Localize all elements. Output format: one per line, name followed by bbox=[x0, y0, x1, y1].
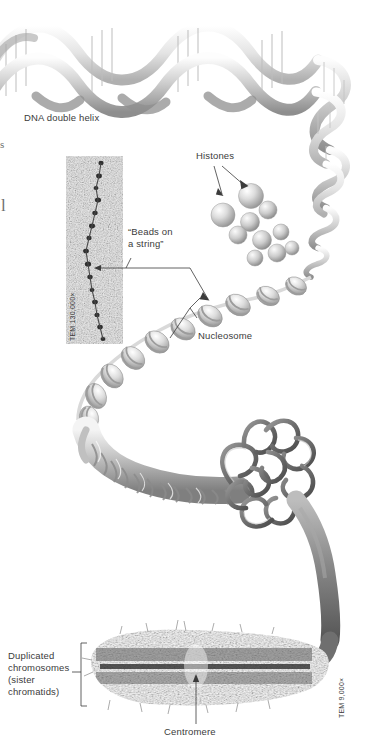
dna-double-helix-illustration bbox=[0, 26, 318, 112]
label-dna-double-helix: DNA double helix bbox=[24, 112, 99, 124]
label-nucleosome: Nucleosome bbox=[198, 330, 252, 342]
label-histones: Histones bbox=[196, 150, 234, 162]
duplicated-chromosomes-bracket bbox=[72, 643, 87, 706]
label-duplicated-line2: chromosomes bbox=[8, 662, 69, 674]
label-beads-on-a-string-line1: “Beads on bbox=[128, 226, 173, 238]
margin-artifact-glyph-top: s bbox=[0, 138, 4, 150]
duplicated-chromosome-micrograph bbox=[80, 620, 340, 716]
histone-spheres-group bbox=[211, 184, 299, 267]
dna-packing-figure: DNA double helix Histones “Beads on a st… bbox=[0, 0, 370, 752]
dna-helix-tapering-coil bbox=[306, 60, 346, 277]
label-duplicated-line1: Duplicated bbox=[8, 650, 54, 662]
margin-artifact-glyph-bottom: l bbox=[1, 196, 6, 216]
label-duplicated-line3: (sister bbox=[8, 674, 35, 686]
label-beads-on-a-string-line2: a string” bbox=[128, 238, 164, 250]
chromatin-fiber-and-looped-domains bbox=[82, 421, 331, 662]
credit-tem-beads: TEM 130,000× bbox=[69, 292, 76, 341]
credit-tem-chromosome: TEM 9,000× bbox=[338, 678, 345, 718]
label-centromere: Centromere bbox=[164, 726, 216, 738]
label-duplicated-line4: chromatids) bbox=[8, 686, 59, 698]
